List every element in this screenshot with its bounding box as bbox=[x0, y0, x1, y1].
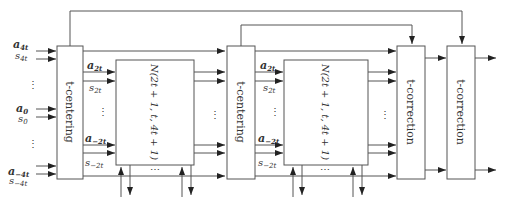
svg-text:⋮: ⋮ bbox=[380, 109, 390, 120]
svg-text:⋮: ⋮ bbox=[98, 106, 108, 117]
svg-text:s2t: s2t bbox=[89, 82, 102, 95]
svg-text:⋮: ⋮ bbox=[270, 106, 280, 117]
svg-text:⋮: ⋮ bbox=[28, 138, 38, 149]
svg-text:a2t: a2t bbox=[260, 59, 276, 73]
svg-text:⋮: ⋮ bbox=[28, 79, 38, 90]
svg-text:⋯: ⋯ bbox=[150, 164, 160, 175]
input-labels: a4t s4t ⋮ a0 s0 ⋮ a−4t s−4t bbox=[8, 38, 38, 188]
svg-text:s−2t: s−2t bbox=[85, 157, 103, 170]
t-centering-label-2: t-centering bbox=[234, 81, 247, 143]
svg-text:a−2t: a−2t bbox=[85, 132, 107, 146]
t-correction-label-1: t-correction bbox=[404, 79, 417, 145]
svg-text:s2t: s2t bbox=[263, 82, 276, 95]
network-label-2: N(2t + 1, t, 4t + 1) bbox=[320, 63, 331, 160]
network-label-1: N(2t + 1, t, 4t + 1) bbox=[149, 63, 160, 160]
sorting-network-diagram: a4t s4t ⋮ a0 s0 ⋮ a−4t s−4t t-centering … bbox=[0, 0, 508, 206]
svg-text:a−2t: a−2t bbox=[258, 132, 280, 146]
input-arrows bbox=[36, 51, 56, 174]
svg-text:a2t: a2t bbox=[87, 59, 103, 73]
svg-text:s−2t: s−2t bbox=[258, 157, 276, 170]
svg-text:⋮: ⋮ bbox=[210, 109, 220, 120]
bypass-line-2 bbox=[241, 25, 412, 46]
t-correction-label-2: t-correction bbox=[454, 79, 467, 145]
bypass-line-1 bbox=[70, 11, 462, 46]
t-centering-label-1: t-centering bbox=[63, 81, 76, 143]
svg-text:⋯: ⋯ bbox=[320, 164, 330, 175]
